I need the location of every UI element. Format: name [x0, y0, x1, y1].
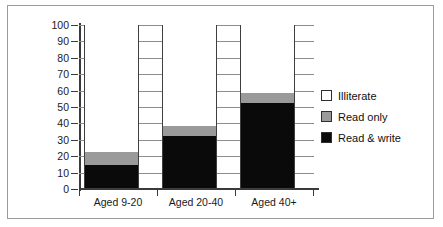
bar-aged-20-40[interactable] — [162, 25, 217, 189]
y-tick-label-50: 50 — [39, 102, 69, 113]
y-tick-label-100: 100 — [39, 20, 69, 31]
segment-illiterate — [85, 24, 138, 152]
y-tick-label-10: 10 — [39, 168, 69, 179]
y-tick-label-90: 90 — [39, 36, 69, 47]
tick-80 — [71, 58, 78, 59]
y-tick-label-70: 70 — [39, 69, 69, 80]
segment-read-write — [85, 165, 138, 188]
segment-illiterate — [163, 24, 216, 126]
y-tick-label-60: 60 — [39, 86, 69, 97]
tick-20 — [71, 156, 78, 157]
tick-90 — [71, 41, 78, 42]
chart-legend: Illiterate Read only Read & write — [321, 85, 426, 148]
legend-swatch-illiterate — [321, 90, 332, 101]
y-tick-label-80: 80 — [39, 53, 69, 64]
y-tick-label-20: 20 — [39, 151, 69, 162]
y-tick-label-40: 40 — [39, 118, 69, 129]
segment-read-write — [163, 136, 216, 188]
segment-read-write — [241, 103, 294, 188]
segment-read-only — [163, 126, 216, 136]
legend-swatch-read-write — [321, 132, 332, 143]
legend-label-illiterate: Illiterate — [338, 90, 377, 102]
segment-read-only — [85, 152, 138, 165]
legend-label-read-write: Read & write — [338, 132, 401, 144]
legend-label-read-only: Read only — [338, 111, 388, 123]
bar-aged-9-20[interactable] — [84, 25, 139, 189]
tick-70 — [71, 74, 78, 75]
y-tick-label-0: 0 — [39, 184, 69, 195]
legend-item-read-write[interactable]: Read & write — [321, 127, 426, 148]
segment-illiterate — [241, 24, 294, 93]
bar-aged-40-plus[interactable] — [240, 25, 295, 189]
tick-40 — [71, 123, 78, 124]
plot-area: 100 90 80 70 60 50 40 30 20 10 0 — [79, 25, 314, 189]
tick-100 — [71, 25, 78, 26]
tick-30 — [71, 140, 78, 141]
tick-50 — [71, 107, 78, 108]
chart-frame: 100 90 80 70 60 50 40 30 20 10 0 — [7, 5, 434, 219]
legend-swatch-read-only — [321, 111, 332, 122]
legend-item-illiterate[interactable]: Illiterate — [321, 85, 426, 106]
category-label-aged-40-plus: Aged 40+ — [219, 196, 329, 208]
legend-item-read-only[interactable]: Read only — [321, 106, 426, 127]
tick-0 — [71, 189, 78, 190]
segment-read-only — [241, 93, 294, 103]
tick-60 — [71, 91, 78, 92]
tick-10 — [71, 173, 78, 174]
y-tick-label-30: 30 — [39, 135, 69, 146]
